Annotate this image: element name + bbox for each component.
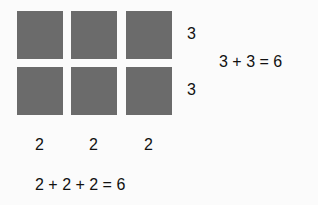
grid-square (126, 67, 172, 115)
column-label: 2 (144, 136, 153, 154)
grid-square (71, 11, 117, 59)
row-equation: 3 + 3 = 6 (219, 53, 282, 71)
row-label: 3 (187, 81, 196, 99)
grid-square (126, 11, 172, 59)
grid-square (17, 67, 63, 115)
row-label: 3 (187, 25, 196, 43)
column-equation: 2 + 2 + 2 = 6 (35, 176, 125, 194)
grid-square (17, 11, 63, 59)
grid-square (71, 67, 117, 115)
column-label: 2 (35, 136, 44, 154)
column-label: 2 (89, 136, 98, 154)
